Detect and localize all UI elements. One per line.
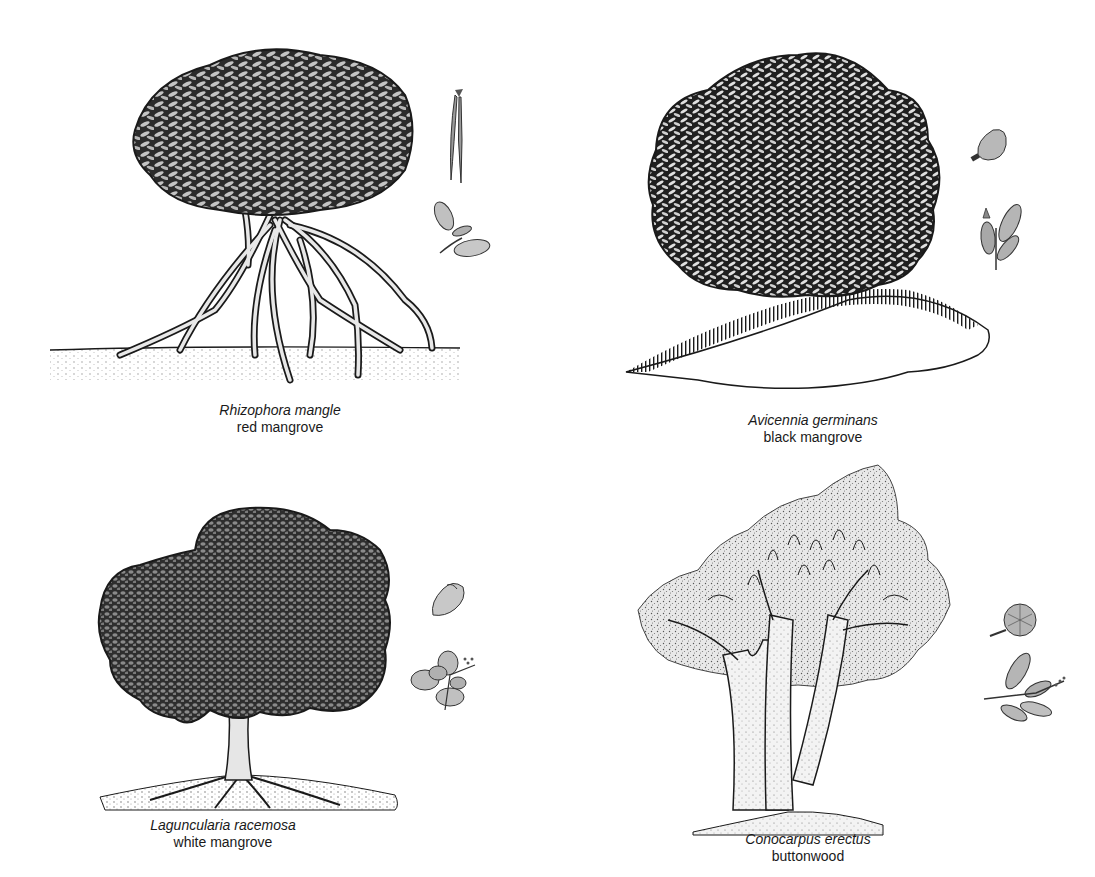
caption-buttonwood: Conocarpus erectus buttonwood [718, 831, 898, 865]
fruit-pod-icon [968, 125, 1013, 170]
scientific-name: Conocarpus erectus [718, 831, 898, 848]
panel-buttonwood: Conocarpus erectus buttonwood [548, 450, 1095, 877]
scientific-name: Rhizophora mangle [180, 402, 380, 419]
panel-black-mangrove: Avicennia germinans black mangrove [548, 0, 1095, 450]
leaf-sprig-icon [976, 647, 1071, 727]
panel-white-mangrove: Laguncularia racemosa white mangrove [0, 450, 548, 877]
scientific-name: Avicennia germinans [708, 412, 918, 429]
cone-fruit-icon [988, 600, 1043, 645]
common-name: buttonwood [718, 848, 898, 865]
propagule-icon [435, 85, 475, 185]
common-name: black mangrove [708, 429, 918, 446]
caption-white-mangrove: Laguncularia racemosa white mangrove [118, 817, 328, 851]
leaf-flower-sprig-icon [432, 198, 492, 263]
caption-black-mangrove: Avicennia germinans black mangrove [708, 412, 918, 446]
common-name: white mangrove [118, 834, 328, 851]
common-name: red mangrove [180, 419, 380, 436]
caption-red-mangrove: Rhizophora mangle red mangrove [180, 402, 380, 436]
round-leaf-sprig-icon [410, 645, 480, 715]
fruit-icon [425, 577, 470, 622]
leaf-flower-sprig-icon [968, 198, 1028, 273]
panel-red-mangrove: Rhizophora mangle red mangrove [0, 0, 548, 440]
scientific-name: Laguncularia racemosa [118, 817, 328, 834]
